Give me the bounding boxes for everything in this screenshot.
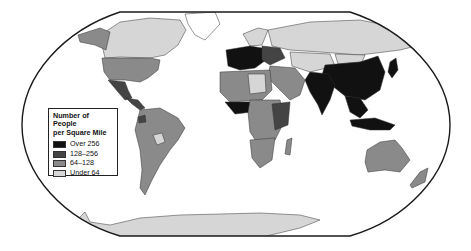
region-mexico bbox=[108, 80, 132, 100]
region-middle-east bbox=[268, 66, 305, 100]
legend-swatch-under-64 bbox=[53, 170, 66, 177]
region-canada bbox=[102, 18, 186, 58]
legend-swatch-over-256 bbox=[53, 141, 66, 148]
map-legend: Number of People per Square Mile Over 25… bbox=[48, 108, 118, 176]
region-usa bbox=[102, 58, 160, 82]
region-new-zealand bbox=[410, 168, 428, 188]
region-australia bbox=[365, 140, 410, 172]
region-southern-africa bbox=[250, 138, 275, 168]
region-scandinavia bbox=[243, 28, 268, 46]
region-eastern-europe bbox=[262, 46, 285, 65]
legend-title-line1: Number of People bbox=[53, 112, 113, 129]
legend-label: Over 256 bbox=[70, 140, 100, 148]
region-russia bbox=[268, 20, 420, 55]
legend-label: 128–256 bbox=[70, 150, 98, 158]
legend-label: 64–128 bbox=[70, 159, 94, 167]
region-greenland bbox=[185, 12, 220, 40]
region-east-africa bbox=[272, 102, 290, 130]
legend-swatch-128-256 bbox=[53, 151, 66, 158]
legend-item-64-128: 64–128 bbox=[53, 159, 113, 169]
legend-swatch-64-128 bbox=[53, 160, 66, 167]
region-japan bbox=[388, 58, 398, 78]
legend-item-128-256: 128–256 bbox=[53, 149, 113, 159]
legend-label: Under 64 bbox=[70, 169, 100, 177]
legend-title: Number of People per Square Mile bbox=[53, 112, 113, 137]
region-western-europe bbox=[226, 46, 266, 70]
region-indonesia bbox=[350, 118, 395, 130]
legend-item-under-64: Under 64 bbox=[53, 168, 113, 178]
region-sahara bbox=[248, 74, 266, 94]
legend-title-line2: per Square Mile bbox=[53, 129, 113, 137]
legend-item-over-256: Over 256 bbox=[53, 140, 113, 150]
region-central-america bbox=[126, 98, 145, 110]
region-india bbox=[305, 72, 335, 115]
region-alaska bbox=[78, 28, 110, 50]
region-madagascar bbox=[285, 138, 292, 155]
